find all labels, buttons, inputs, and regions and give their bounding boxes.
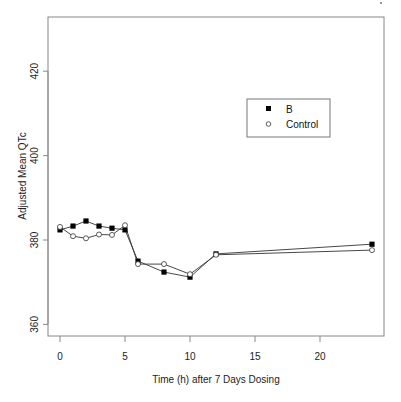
marker-circle-icon [188, 272, 193, 277]
legend-marker-b-icon [266, 106, 271, 111]
marker-square-icon [96, 223, 101, 228]
marker-circle-icon [123, 223, 128, 228]
x-tick-label: 5 [122, 351, 128, 362]
marker-square-icon [83, 218, 88, 223]
marker-square-icon [109, 226, 114, 231]
x-tick-label: 20 [314, 351, 326, 362]
series-line-1 [60, 225, 372, 274]
y-axis-title: Adjusted Mean QTc [17, 132, 28, 219]
marker-circle-icon [136, 262, 141, 267]
chart: 360380400420 05101520 B Control Time (h)… [0, 0, 401, 402]
legend-label-control: Control [286, 119, 318, 130]
y-axis: 360380400420 [29, 62, 48, 332]
marker-square-icon [369, 242, 374, 247]
series-layer [57, 218, 374, 279]
marker-square-icon [161, 269, 166, 274]
x-tick-label: 0 [57, 351, 63, 362]
x-axis-title: Time (h) after 7 Days Dosing [152, 374, 279, 385]
corner-artifact [380, 2, 382, 4]
x-tick-label: 10 [184, 351, 196, 362]
series-line-0 [60, 221, 372, 277]
marker-circle-icon [162, 262, 167, 267]
y-tick-label: 400 [29, 147, 40, 164]
x-tick-label: 15 [249, 351, 261, 362]
marker-circle-icon [110, 232, 115, 237]
y-tick-label: 420 [29, 62, 40, 79]
legend-marker-control-icon [266, 122, 271, 127]
legend: B Control [247, 99, 330, 137]
marker-square-icon [70, 223, 75, 228]
marker-circle-icon [71, 234, 76, 239]
plot-frame [48, 17, 384, 336]
marker-circle-icon [58, 224, 63, 229]
marker-circle-icon [214, 252, 219, 257]
marker-circle-icon [97, 232, 102, 237]
y-tick-label: 380 [29, 231, 40, 248]
y-tick-label: 360 [29, 316, 40, 333]
marker-circle-icon [84, 236, 89, 241]
legend-label-b: B [286, 104, 293, 115]
marker-circle-icon [370, 248, 375, 253]
x-axis: 05101520 [57, 336, 326, 362]
